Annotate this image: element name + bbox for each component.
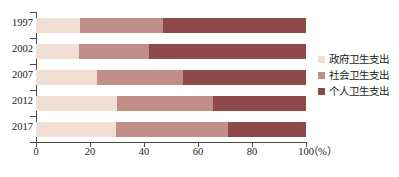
bar-segment bbox=[117, 96, 213, 111]
legend-item-government: 政府卫生支出 bbox=[318, 54, 389, 65]
x-axis-label-80: 80 bbox=[237, 146, 267, 158]
bar-segment bbox=[97, 70, 183, 85]
legend-swatch-icon bbox=[318, 72, 325, 79]
bar-segment bbox=[36, 122, 116, 137]
category-label-2012: 2012 bbox=[1, 96, 33, 106]
bar-segment bbox=[163, 18, 306, 33]
x-axis-line bbox=[36, 142, 307, 143]
bar-row bbox=[36, 18, 306, 33]
bar-segment bbox=[228, 122, 306, 137]
bar-row bbox=[36, 122, 306, 137]
bar-row bbox=[36, 70, 306, 85]
chart-legend: 政府卫生支出 社会卫生支出 个人卫生支出 bbox=[318, 54, 389, 97]
category-label-2007: 2007 bbox=[1, 70, 33, 80]
legend-item-social: 社会卫生支出 bbox=[318, 70, 389, 81]
x-axis-label-60: 60 bbox=[183, 146, 213, 158]
x-axis-unit-label: （%） bbox=[308, 146, 337, 158]
category-label-2002: 2002 bbox=[1, 44, 33, 54]
bar-row bbox=[36, 96, 306, 111]
bar-segment bbox=[213, 96, 306, 111]
bar-segment bbox=[80, 18, 163, 33]
bar-segment bbox=[183, 70, 306, 85]
category-label-1997: 1997 bbox=[1, 18, 33, 28]
bar-segment bbox=[79, 44, 149, 59]
bar-segment bbox=[36, 44, 79, 59]
legend-label: 社会卫生支出 bbox=[329, 70, 389, 81]
legend-label: 政府卫生支出 bbox=[329, 54, 389, 65]
x-axis-label-20: 20 bbox=[75, 146, 105, 158]
legend-swatch-icon bbox=[318, 56, 325, 63]
bar-segment bbox=[36, 18, 80, 33]
bar-segment bbox=[36, 70, 97, 85]
legend-swatch-icon bbox=[318, 88, 325, 95]
bar-segment bbox=[36, 96, 117, 111]
x-axis-label-40: 40 bbox=[129, 146, 159, 158]
bar-segment bbox=[116, 122, 228, 137]
bars-container bbox=[36, 12, 306, 142]
legend-item-personal: 个人卫生支出 bbox=[318, 86, 389, 97]
x-axis-label-0: 0 bbox=[21, 146, 51, 158]
stacked-bar-chart: 1997 2002 2007 2012 2017 0 20 40 60 80 1… bbox=[0, 0, 399, 177]
figure-caption bbox=[38, 170, 388, 177]
legend-label: 个人卫生支出 bbox=[329, 86, 389, 97]
category-label-2017: 2017 bbox=[1, 122, 33, 132]
bar-segment bbox=[149, 44, 306, 59]
bar-row bbox=[36, 44, 306, 59]
